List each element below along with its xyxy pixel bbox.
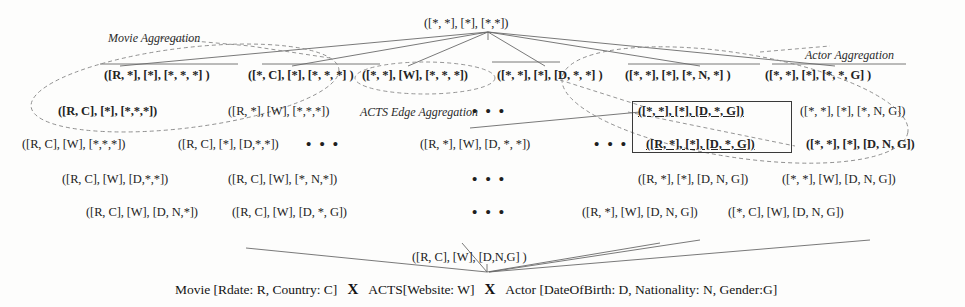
node-l1-5[interactable]: ([*, *], [*], [*, *, G] ) bbox=[765, 68, 871, 82]
ellipsis-mid-2: • • • bbox=[594, 135, 628, 152]
node-l1-1[interactable]: ([*, C], [*], [*, *, *] ) bbox=[248, 68, 353, 82]
node-l1-0[interactable]: ([R, *], [*], [*, *, *] ) bbox=[104, 68, 209, 82]
node-l3-1[interactable]: ([R, C], [*], [D,*,*]) bbox=[178, 137, 279, 151]
node-l3-4[interactable]: ([*, *], [*], [D, N, G]) bbox=[806, 137, 915, 151]
node-l4-1[interactable]: ([R, C], [W], [*, N,*]) bbox=[228, 172, 337, 186]
node-l2-2[interactable]: ([*, *], [*], [D, *, G]) bbox=[638, 104, 744, 118]
caption-operator-1: X bbox=[337, 281, 368, 297]
node-l3-3[interactable]: ([R, *], [*], [D, *, G]) bbox=[646, 137, 755, 151]
node-apex[interactable]: ([*, *], [*], [*,*]) bbox=[424, 16, 508, 30]
node-l5-1[interactable]: ([R, C], [W], [D, *, G]) bbox=[232, 205, 347, 219]
node-l5-2[interactable]: ([R, *], [W], [D, N, G]) bbox=[582, 205, 698, 219]
label-acts-edge-aggregation: ACTS Edge Aggregation bbox=[360, 105, 478, 120]
node-bottom[interactable]: ([R, C], [W], [D,N,G] ) bbox=[412, 250, 527, 264]
movie-aggregation-ellipse bbox=[26, 29, 343, 146]
ellipsis-mid-3: • • • bbox=[472, 170, 506, 187]
caption-actor: Actor [DateOfBirth: D, Nationality: N, G… bbox=[505, 282, 777, 297]
ellipsis-mid-4: • • • bbox=[472, 203, 506, 220]
caption-movie: Movie [Rdate: R, Country: C] bbox=[175, 282, 337, 297]
label-movie-aggregation: Movie Aggregation bbox=[108, 31, 200, 46]
node-l2-0[interactable]: ([R, C], [*], [*,*,*]) bbox=[58, 104, 157, 118]
node-l1-2[interactable]: ([*, *], [W], [*, *, *]) bbox=[362, 68, 468, 82]
figure-caption: Movie [Rdate: R, Country: C]XACTS[Websit… bbox=[175, 281, 777, 298]
node-l5-3[interactable]: ([*, C], [W], [D, N, G]) bbox=[728, 205, 844, 219]
node-l2-3[interactable]: ([*, *], [*], [*, N, G]) bbox=[800, 104, 905, 118]
ellipsis-mid-1: • • • bbox=[472, 102, 506, 119]
node-l1-4[interactable]: ([*, *], [*], [*, N, *] ) bbox=[625, 68, 730, 82]
node-l4-2[interactable]: ([R, *], [*], [D, N, G]) bbox=[638, 172, 748, 186]
caption-acts: ACTS[Website: W] bbox=[368, 282, 474, 297]
figure-canvas: ([*, *], [*], [*,*]) Movie Aggregation A… bbox=[0, 0, 965, 307]
node-l4-0[interactable]: ([R, C], [W], [D,*,*]) bbox=[62, 172, 168, 186]
node-l4-3[interactable]: ([*, *], [W], [D, N, G]) bbox=[782, 172, 896, 186]
label-actor-aggregation: Actor Aggregation bbox=[805, 48, 894, 63]
caption-operator-2: X bbox=[475, 281, 506, 297]
node-l3-0[interactable]: ([R, C], [W], [*,*,*]) bbox=[22, 137, 125, 151]
ellipsis-left-1: • • • bbox=[306, 135, 340, 152]
node-l1-3[interactable]: ([*, *], [*], [D, *, *] ) bbox=[497, 68, 602, 82]
node-l3-2[interactable]: ([R, *], [W], [D, *, *]) bbox=[420, 137, 530, 151]
node-l2-1[interactable]: ([R, *], [W], [*,*,*]) bbox=[228, 104, 329, 118]
node-l5-0[interactable]: ([R, C], [W], [D, N,*]) bbox=[86, 205, 198, 219]
